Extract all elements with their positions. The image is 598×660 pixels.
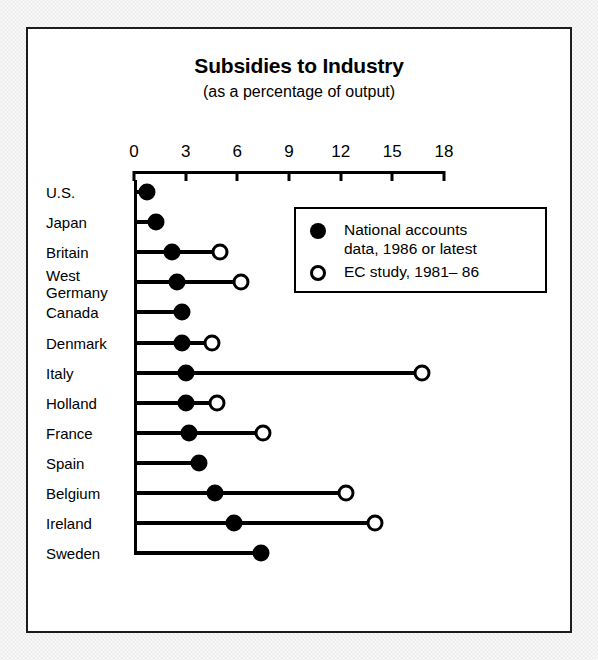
category-label: Sweden (46, 546, 100, 561)
row-connector-line (134, 461, 199, 465)
legend-entry: EC study, 1981– 86 (310, 262, 479, 281)
category-label: Belgium (46, 486, 100, 501)
row-connector-line (134, 521, 375, 525)
legend-entry: National accounts data, 1986 or latest (310, 220, 477, 258)
legend-marker (310, 262, 344, 281)
legend-marker (310, 220, 344, 239)
national-accounts-marker (225, 515, 242, 532)
national-accounts-marker (191, 454, 208, 471)
ec-study-marker (337, 485, 354, 502)
plot-area: 0369121518 U.S.JapanBritainWestGermanyCa… (28, 29, 574, 635)
axis-tick (288, 171, 291, 181)
national-accounts-marker (177, 364, 194, 381)
open-circle-icon (310, 265, 326, 281)
axis-tick-label: 12 (331, 142, 350, 162)
ec-study-marker (232, 274, 249, 291)
category-label: Spain (46, 456, 84, 471)
category-label: Denmark (46, 336, 107, 351)
ec-study-marker (212, 244, 229, 261)
national-accounts-marker (174, 334, 191, 351)
axis-tick (391, 171, 394, 181)
category-label: WestGermany (46, 268, 108, 300)
axis-tick-label: 18 (435, 142, 454, 162)
national-accounts-marker (174, 304, 191, 321)
chart-frame: Subsidies to Industry (as a percentage o… (26, 27, 572, 633)
axis-tick (184, 171, 187, 181)
legend: National accounts data, 1986 or latestEC… (294, 207, 547, 293)
axis-tick-label: 9 (284, 142, 293, 162)
axis-tick-label: 0 (129, 142, 138, 162)
ec-study-marker (413, 364, 430, 381)
row-connector-line (134, 491, 346, 495)
national-accounts-marker (206, 485, 223, 502)
row-connector-line (134, 401, 217, 405)
ec-study-marker (203, 334, 220, 351)
axis-tick (443, 171, 446, 181)
ec-study-marker (255, 424, 272, 441)
category-label: France (46, 426, 93, 441)
legend-label: National accounts data, 1986 or latest (344, 220, 477, 258)
national-accounts-marker (181, 424, 198, 441)
axis-tick-label: 3 (181, 142, 190, 162)
ec-study-marker (208, 394, 225, 411)
category-baseline (134, 180, 137, 553)
category-label: U.S. (46, 185, 75, 200)
row-connector-line (134, 431, 263, 435)
axis-tick-label: 15 (383, 142, 402, 162)
legend-label: EC study, 1981– 86 (344, 262, 479, 281)
category-label: Japan (46, 215, 87, 230)
ec-study-marker (367, 515, 384, 532)
category-label: Ireland (46, 516, 92, 531)
filled-circle-icon (310, 223, 326, 239)
national-accounts-marker (177, 394, 194, 411)
axis-tick (236, 171, 239, 181)
national-accounts-marker (163, 244, 180, 261)
national-accounts-marker (169, 274, 186, 291)
national-accounts-marker (148, 214, 165, 231)
row-connector-line (134, 280, 241, 284)
axis-tick (339, 171, 342, 181)
row-connector-line (134, 551, 261, 555)
category-label: Britain (46, 245, 89, 260)
axis-tick-label: 6 (233, 142, 242, 162)
category-label: Italy (46, 366, 74, 381)
category-label: Canada (46, 305, 99, 320)
category-label: Holland (46, 396, 97, 411)
axis-tick (133, 171, 136, 181)
national-accounts-marker (253, 545, 270, 562)
national-accounts-marker (138, 184, 155, 201)
